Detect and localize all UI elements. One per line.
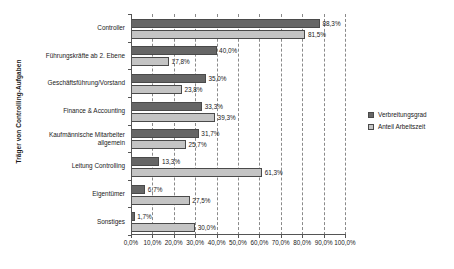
category-label-line: Führungskräfte ab 2. Ebene: [0, 52, 125, 60]
bar-value-label: 81,5%: [308, 30, 326, 39]
category-label: Kaufmännische Mitarbeiterallgemein: [0, 131, 125, 147]
bar-group: 40,0%17,8%: [131, 44, 345, 66]
y-tick-mark: [128, 42, 132, 43]
bar-value-label: 17,8%: [172, 57, 190, 66]
bar-verbreitungsgrad: [131, 102, 202, 111]
y-tick-mark: [128, 14, 132, 15]
y-tick-mark: [128, 207, 132, 208]
x-tick-label: 40,0%: [208, 239, 226, 246]
y-tick-mark: [128, 69, 132, 70]
x-tick-label: 90,0%: [315, 239, 333, 246]
category-label-line: allgemein: [0, 139, 125, 147]
category-label-line: Controller: [0, 24, 125, 32]
bar-value-label: 39,3%: [218, 113, 236, 122]
legend-swatch-icon: [368, 124, 374, 130]
bar-value-label: 61,3%: [265, 168, 283, 177]
legend-label: Verbreitungsgrad: [378, 111, 427, 118]
bar-anteil-arbeitszeit: [131, 196, 190, 205]
bar-verbreitungsgrad: [131, 157, 159, 166]
y-tick-mark: [128, 97, 132, 98]
bar-verbreitungsgrad: [131, 46, 217, 55]
category-label: Controller: [0, 24, 125, 32]
x-tick-mark: [324, 234, 325, 238]
bar-value-label: 23,8%: [184, 85, 202, 94]
bar-value-label: 25,7%: [188, 140, 206, 149]
bar-value-label: 1,7%: [137, 212, 152, 221]
bar-verbreitungsgrad: [131, 74, 206, 83]
bar-group: 88,3%81,5%: [131, 17, 345, 39]
category-label: Sonstiges: [0, 218, 125, 226]
bar-anteil-arbeitszeit: [131, 113, 215, 122]
x-tick-mark: [345, 234, 346, 238]
bar-value-label: 35,0%: [208, 74, 226, 83]
y-tick-mark: [128, 125, 132, 126]
y-tick-mark: [128, 180, 132, 181]
bar-verbreitungsgrad: [131, 19, 320, 28]
bar-value-label: 27,5%: [192, 196, 210, 205]
bar-verbreitungsgrad: [131, 129, 199, 138]
bar-value-label: 33,3%: [205, 102, 223, 111]
bar-verbreitungsgrad: [131, 185, 145, 194]
bar-anteil-arbeitszeit: [131, 140, 186, 149]
x-tick-mark: [174, 234, 175, 238]
x-tick-label: 20,0%: [165, 239, 183, 246]
gridline: [345, 14, 346, 235]
bar-anteil-arbeitszeit: [131, 85, 182, 94]
bar-group: 33,3%39,3%: [131, 100, 345, 122]
legend-item: Verbreitungsgrad: [368, 110, 454, 119]
bar-anteil-arbeitszeit: [131, 30, 305, 39]
bar-value-label: 13,3%: [162, 157, 180, 166]
y-tick-mark: [128, 152, 132, 153]
x-tick-mark: [281, 234, 282, 238]
bar-value-label: 40,0%: [219, 46, 237, 55]
x-tick-mark: [259, 234, 260, 238]
category-label: Geschäftsführung/Vorstand: [0, 79, 125, 87]
category-label: Finance & Accounting: [0, 107, 125, 115]
x-tick-label: 70,0%: [272, 239, 290, 246]
x-tick-label: 60,0%: [250, 239, 268, 246]
bar-anteil-arbeitszeit: [131, 223, 195, 232]
category-label: Führungskräfte ab 2. Ebene: [0, 52, 125, 60]
bar-anteil-arbeitszeit: [131, 57, 169, 66]
bar-anteil-arbeitszeit: [131, 168, 262, 177]
x-tick-label: 80,0%: [293, 239, 311, 246]
category-label-line: Kaufmännische Mitarbeiter: [0, 131, 125, 139]
x-axis-tick-labels: 0,0%10,0%20,0%30,0%40,0%50,0%60,0%70,0%8…: [131, 239, 345, 251]
category-label-line: Sonstiges: [0, 218, 125, 226]
category-label-line: Leitung Controlling: [0, 162, 125, 170]
y-tick-mark: [128, 235, 132, 236]
legend-swatch-icon: [368, 112, 374, 118]
x-tick-label: 100,0%: [334, 239, 355, 246]
x-tick-mark: [217, 234, 218, 238]
chart-legend: VerbreitungsgradAnteil Arbeitszeit: [368, 110, 454, 134]
category-axis-labels: ControllerFührungskräfte ab 2. EbeneGesc…: [0, 14, 129, 235]
category-label-line: Eigentümer: [0, 190, 125, 198]
bar-value-label: 31,7%: [201, 129, 219, 138]
bar-group: 31,7%25,7%: [131, 127, 345, 149]
x-tick-label: 10,0%: [143, 239, 161, 246]
bar-value-label: 88,3%: [322, 19, 340, 28]
x-tick-label: 0,0%: [124, 239, 138, 246]
bar-group: 6,7%27,5%: [131, 183, 345, 205]
category-label: Eigentümer: [0, 190, 125, 198]
x-tick-mark: [238, 234, 239, 238]
bar-group: 35,0%23,8%: [131, 72, 345, 94]
bar-chart: Träger von Controlling-Aufgaben Controll…: [0, 0, 454, 269]
legend-label: Anteil Arbeitszeit: [378, 123, 425, 130]
bar-value-label: 6,7%: [148, 185, 163, 194]
category-label: Leitung Controlling: [0, 162, 125, 170]
bar-group: 13,3%61,3%: [131, 155, 345, 177]
category-label-line: Geschäftsführung/Vorstand: [0, 79, 125, 87]
plot-area: 88,3%81,5%40,0%17,8%35,0%23,8%33,3%39,3%…: [131, 14, 345, 235]
x-tick-label: 50,0%: [229, 239, 247, 246]
bar-group: 1,7%30,0%: [131, 210, 345, 232]
x-tick-label: 30,0%: [186, 239, 204, 246]
x-tick-mark: [152, 234, 153, 238]
category-label-line: Finance & Accounting: [0, 107, 125, 115]
bar-value-label: 30,0%: [198, 223, 216, 232]
legend-item: Anteil Arbeitszeit: [368, 122, 454, 131]
x-tick-mark: [302, 234, 303, 238]
x-tick-mark: [195, 234, 196, 238]
